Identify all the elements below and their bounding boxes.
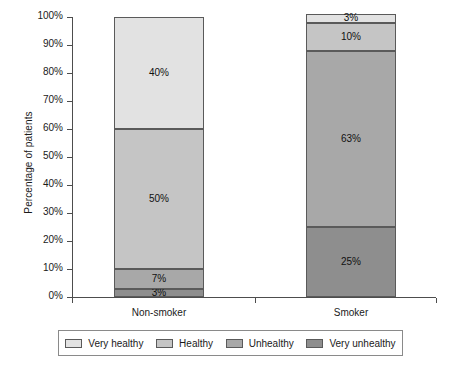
y-axis-tick-label: 80% <box>43 66 63 77</box>
bar-segment-value: 3% <box>152 288 166 298</box>
y-axis-tick-label: 20% <box>43 234 63 245</box>
bar-non-smoker: 3%7%50%40% <box>114 17 204 297</box>
legend-item[interactable]: Very healthy <box>65 338 143 349</box>
x-axis-label-smoker: Smoker <box>281 307 421 318</box>
legend-label: Unhealthy <box>249 338 294 349</box>
x-axis-tick <box>255 298 256 303</box>
bar-segment: 25% <box>306 227 396 297</box>
legend-swatch-icon <box>156 339 173 348</box>
y-axis-tick-label: 60% <box>43 122 63 133</box>
x-axis-label-non-smoker: Non-smoker <box>89 307 229 318</box>
legend-label: Healthy <box>179 338 213 349</box>
y-axis-tick-label: 10% <box>43 262 63 273</box>
x-axis-tick <box>72 298 73 303</box>
legend-label: Very healthy <box>88 338 143 349</box>
bar-segment-value: 63% <box>341 134 361 144</box>
y-axis-tick: 100% <box>67 17 72 18</box>
plot-area: 100%90%80%70%60%50%40%30%20%10%0% 3%7%50… <box>72 17 436 297</box>
x-axis-line <box>72 297 436 298</box>
bar-segment-value: 7% <box>152 274 166 284</box>
legend-label: Very unhealthy <box>329 338 395 349</box>
bar-segment-value: 25% <box>341 257 361 267</box>
bar-segment-value: 10% <box>341 32 361 42</box>
y-axis-tick-label: 30% <box>43 206 63 217</box>
y-axis-title: Percentage of patients <box>23 83 34 243</box>
legend-swatch-icon <box>306 339 323 348</box>
y-axis-tick-label: 70% <box>43 94 63 105</box>
legend-item[interactable]: Very unhealthy <box>306 338 395 349</box>
legend-item[interactable]: Unhealthy <box>226 338 294 349</box>
stacked-bar-chart: Percentage of patients 100%90%80%70%60%5… <box>0 0 456 370</box>
y-axis-tick: 60% <box>67 129 72 130</box>
bar-segment: 10% <box>306 23 396 51</box>
y-axis-tick: 70% <box>67 101 72 102</box>
legend-items: Very healthyHealthyUnhealthyVery unhealt… <box>59 338 402 349</box>
bar-smoker: 25%63%10%3% <box>306 17 396 297</box>
bar-segment-value: 50% <box>149 194 169 204</box>
bar-segment-value: 40% <box>149 68 169 78</box>
y-axis-tick: 20% <box>67 241 72 242</box>
y-axis-tick-label: 50% <box>43 150 63 161</box>
y-axis-tick-label: 100% <box>37 10 63 21</box>
y-axis-tick: 40% <box>67 185 72 186</box>
legend-swatch-icon <box>65 339 82 348</box>
bar-segment: 50% <box>114 129 204 269</box>
bar-segment: 3% <box>114 289 204 297</box>
y-axis-tick: 10% <box>67 269 72 270</box>
chart-legend: Very healthyHealthyUnhealthyVery unhealt… <box>58 330 403 356</box>
y-axis-tick-label: 40% <box>43 178 63 189</box>
y-axis-tick-label: 90% <box>43 38 63 49</box>
legend-item[interactable]: Healthy <box>156 338 213 349</box>
y-axis-line <box>72 17 73 298</box>
legend-swatch-icon <box>226 339 243 348</box>
y-axis-tick: 50% <box>67 157 72 158</box>
bar-segment: 40% <box>114 17 204 129</box>
bar-segment: 63% <box>306 51 396 227</box>
y-axis-tick: 30% <box>67 213 72 214</box>
bar-segment: 7% <box>114 269 204 289</box>
bar-segment: 3% <box>306 14 396 22</box>
bar-segment-value: 3% <box>344 13 358 23</box>
y-axis-tick-label: 0% <box>49 290 63 301</box>
y-axis-tick: 80% <box>67 73 72 74</box>
y-axis-tick: 90% <box>67 45 72 46</box>
x-axis-tick <box>436 298 437 303</box>
